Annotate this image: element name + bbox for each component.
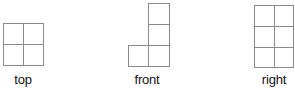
top-view-cell [23, 44, 44, 66]
front-view [128, 3, 170, 67]
right-view-cell [254, 5, 275, 27]
right-view-cell [274, 5, 294, 27]
top-view-cell [3, 44, 24, 66]
front-view-cell [148, 3, 170, 25]
front-view-cell [128, 45, 149, 67]
right-view-cell [254, 47, 275, 68]
front-view-label: front [134, 72, 159, 87]
front-view-cell [148, 24, 170, 46]
top-view-cell [3, 23, 24, 45]
top-view [3, 23, 44, 66]
right-view [254, 5, 294, 68]
right-view-label: right [262, 72, 286, 87]
front-view-cell [148, 45, 170, 67]
right-view-cell [274, 47, 294, 68]
top-view-label: top [14, 72, 31, 87]
right-view-cell [274, 26, 294, 48]
right-view-cell [254, 26, 275, 48]
top-view-cell [23, 23, 44, 45]
